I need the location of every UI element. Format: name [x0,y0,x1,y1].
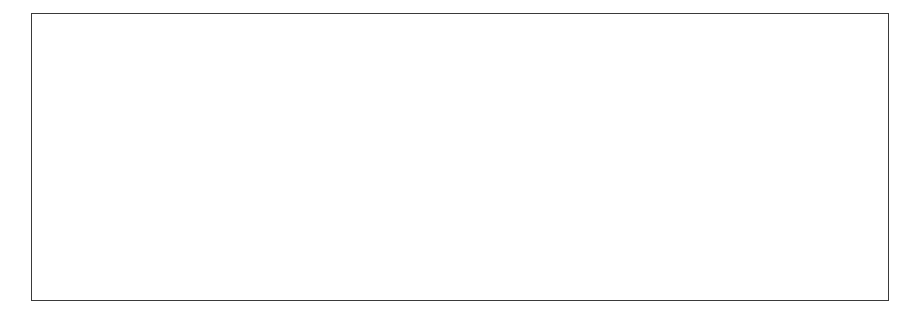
maturity-model-figure: Level 1: Awareness Level 2: Repeatable L… [0,0,924,318]
figure-border [31,13,889,301]
